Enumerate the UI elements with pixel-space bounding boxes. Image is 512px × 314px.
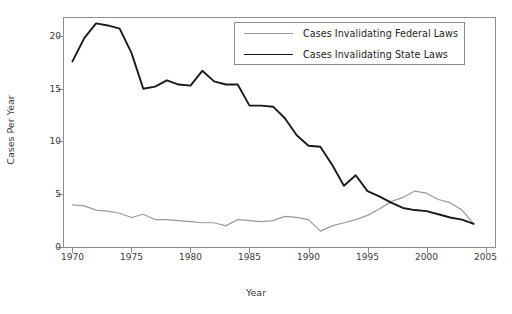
- x-tick-label: 1970: [61, 252, 84, 262]
- x-tick-label: 1980: [179, 252, 202, 262]
- x-tick-label: 1975: [120, 252, 143, 262]
- legend-item-state: Cases Invalidating State Laws: [235, 44, 464, 65]
- x-tick-label: 1985: [238, 252, 261, 262]
- x-axis-label: Year: [0, 287, 512, 298]
- legend-label-federal: Cases Invalidating Federal Laws: [303, 28, 458, 39]
- legend-swatch-federal: [244, 33, 293, 34]
- legend-swatch-state: [244, 54, 293, 55]
- x-tick-label: 1990: [297, 252, 320, 262]
- chart-figure: Cases Per Year Year 19701975198019851990…: [0, 0, 512, 314]
- y-tick-label: 20: [50, 31, 61, 41]
- x-tick-label: 2005: [474, 252, 497, 262]
- y-tick-label: 5: [55, 189, 61, 199]
- x-tick-label: 1995: [356, 252, 379, 262]
- y-tick-label: 0: [55, 242, 61, 252]
- x-tick-label: 2000: [415, 252, 438, 262]
- chart-legend: Cases Invalidating Federal Laws Cases In…: [234, 22, 465, 65]
- series-line-federal: [72, 191, 473, 231]
- y-tick-label: 15: [50, 84, 61, 94]
- legend-label-state: Cases Invalidating State Laws: [303, 49, 448, 60]
- y-tick-label: 10: [50, 136, 61, 146]
- legend-item-federal: Cases Invalidating Federal Laws: [235, 23, 464, 44]
- y-axis-label: Cases Per Year: [5, 95, 16, 165]
- y-axis-label-container: Cases Per Year: [2, 60, 18, 200]
